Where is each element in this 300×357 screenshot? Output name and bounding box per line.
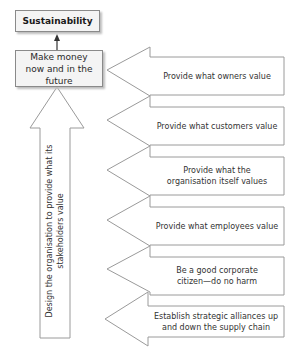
sustainability-label: Sustainability <box>22 16 92 26</box>
arrow-label-2: Provide what customers value <box>150 107 284 145</box>
goal-label: Make money now and in the future <box>22 51 96 87</box>
arrow-label-6: Establish strategic alliances up and dow… <box>148 306 284 337</box>
arrow-label-5: Be a good corporate citizen—do no harm <box>150 257 284 295</box>
sustainability-box: Sustainability <box>15 10 100 32</box>
goal-box: Make money now and in the future <box>15 50 103 87</box>
up-arrow-label: Design the organisation to provide what … <box>44 138 70 324</box>
arrow-label-4: Provide what employees value <box>150 207 284 245</box>
arrow-label-3: Provide what the organisation itself val… <box>150 157 284 195</box>
connector-arrowhead-icon <box>54 34 60 41</box>
arrow-label-1: Provide what owners value <box>150 57 284 95</box>
